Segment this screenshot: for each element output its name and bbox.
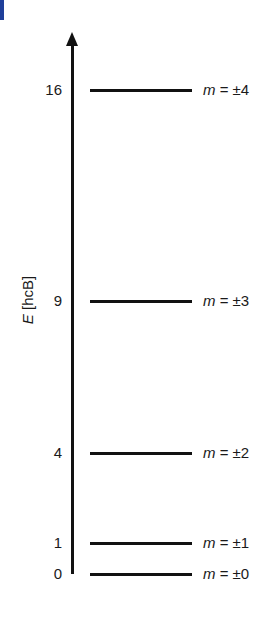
level-line bbox=[90, 573, 192, 576]
level-label: m = ±4 bbox=[203, 80, 249, 100]
energy-tick-label: 4 bbox=[54, 443, 62, 463]
level-label-value: = ±1 bbox=[216, 534, 250, 551]
level-label: m = ±1 bbox=[203, 533, 249, 553]
level-label-value: = ±3 bbox=[216, 292, 250, 309]
level-label-var: m bbox=[203, 444, 216, 461]
energy-level: 4m = ±2 bbox=[0, 443, 275, 463]
energy-level: 1m = ±1 bbox=[0, 533, 275, 553]
level-label: m = ±2 bbox=[203, 443, 249, 463]
energy-level: 0m = ±0 bbox=[0, 564, 275, 584]
accent-bar bbox=[0, 0, 4, 20]
level-line bbox=[90, 542, 192, 545]
level-label-var: m bbox=[203, 292, 216, 309]
level-line bbox=[90, 452, 192, 455]
level-label-var: m bbox=[203, 565, 216, 582]
level-label-var: m bbox=[203, 81, 216, 98]
level-label: m = ±0 bbox=[203, 564, 249, 584]
level-line bbox=[90, 300, 192, 303]
level-label-value: = ±0 bbox=[216, 565, 250, 582]
level-label-value: = ±2 bbox=[216, 444, 250, 461]
energy-tick-label: 0 bbox=[54, 564, 62, 584]
energy-tick-label: 1 bbox=[54, 533, 62, 553]
level-label-var: m bbox=[203, 534, 216, 551]
y-axis-variable: E bbox=[19, 314, 36, 324]
energy-tick-label: 16 bbox=[45, 80, 62, 100]
energy-tick-label: 9 bbox=[54, 291, 62, 311]
energy-level: 9m = ±3 bbox=[0, 291, 275, 311]
energy-level: 16m = ±4 bbox=[0, 80, 275, 100]
level-line bbox=[90, 89, 192, 92]
level-label: m = ±3 bbox=[203, 291, 249, 311]
level-label-value: = ±4 bbox=[216, 81, 250, 98]
